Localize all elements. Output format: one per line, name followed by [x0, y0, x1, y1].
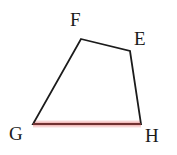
- vertex-label-h: H: [145, 126, 159, 145]
- vertex-label-e: E: [134, 29, 146, 48]
- vertex-label-f: F: [70, 10, 81, 29]
- geometry-figure: F E G H: [0, 0, 177, 155]
- vertex-label-g: G: [9, 124, 23, 143]
